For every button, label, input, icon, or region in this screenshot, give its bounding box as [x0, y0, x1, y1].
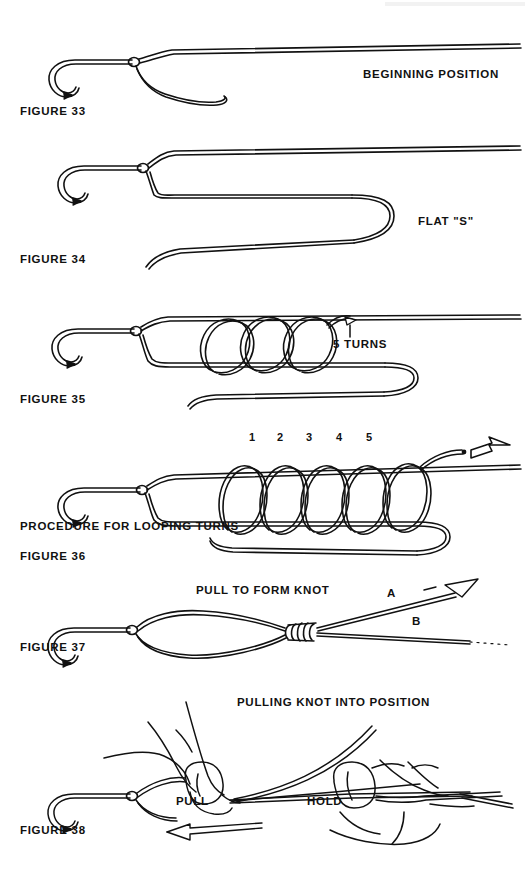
turn-number-5: 5	[366, 431, 372, 443]
turn-number-1: 1	[249, 431, 255, 443]
figure-34-label: FLAT "S"	[418, 215, 474, 227]
figure-36: 1 2 3 4 5 PROCEDURE FOR LOOPING TURNS FI…	[0, 420, 529, 560]
pull-label: PULL	[176, 795, 209, 807]
illustration-page: BEGINNING POSITION FIGURE 33	[0, 0, 529, 874]
turn-number-4: 4	[336, 431, 342, 443]
figure-34: FLAT "S" FIGURE 34	[0, 140, 529, 285]
figure-38-label: PULLING KNOT INTO POSITION	[237, 696, 430, 708]
figure-36-label: PROCEDURE FOR LOOPING TURNS	[20, 520, 239, 532]
figure-36-drawing	[0, 420, 529, 560]
line-a-label: A	[387, 587, 395, 599]
figure-37-label: PULL TO FORM KNOT	[196, 584, 330, 596]
figure-35-caption: FIGURE 35	[20, 393, 86, 405]
figure-35-label: 5 TURNS	[333, 338, 387, 350]
figure-36-caption: FIGURE 36	[20, 550, 86, 562]
figure-33-label: BEGINNING POSITION	[363, 68, 499, 80]
line-b-label: B	[412, 615, 420, 627]
figure-37-caption: FIGURE 37	[20, 641, 86, 653]
turn-number-2: 2	[277, 431, 283, 443]
figure-38-caption: FIGURE 38	[20, 824, 86, 836]
scan-artifact	[385, 2, 525, 6]
figure-38: PULLING KNOT INTO POSITION PULL HOLD FIG…	[0, 672, 529, 872]
figure-33-caption: FIGURE 33	[20, 105, 86, 117]
figure-33: BEGINNING POSITION FIGURE 33	[0, 30, 529, 135]
turn-number-3: 3	[306, 431, 312, 443]
figure-35: 5 TURNS FIGURE 35	[0, 285, 529, 415]
figure-37-drawing	[0, 565, 529, 670]
figure-33-drawing	[0, 30, 529, 135]
figure-37: PULL TO FORM KNOT A B FIGURE 37	[0, 565, 529, 670]
figure-34-caption: FIGURE 34	[20, 253, 86, 265]
hold-label: HOLD	[307, 795, 342, 807]
